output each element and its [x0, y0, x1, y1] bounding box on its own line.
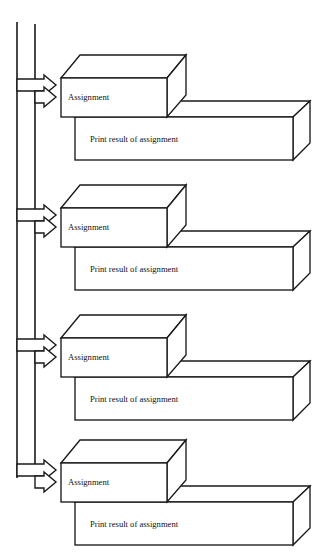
assignment-box-4-label: Assignment	[68, 477, 110, 487]
print-box-3-label: Print result of assignment	[90, 394, 179, 404]
assignment-box-1-label: Assignment	[68, 92, 110, 102]
flow-diagram-canvas: Print result of assignment Assignment Pr…	[0, 0, 314, 560]
assignment-box-2-label: Assignment	[68, 222, 110, 232]
assignment-box-3-top-face	[61, 315, 186, 338]
flow-diagram-svg: Print result of assignment Assignment Pr…	[0, 0, 314, 560]
assignment-box-2-top-face	[61, 185, 186, 208]
flow-group-4: Print result of assignment Assignment	[17, 440, 310, 545]
flow-group-2: Print result of assignment Assignment	[17, 185, 310, 290]
print-box-2-label: Print result of assignment	[90, 264, 179, 274]
print-box-1-label: Print result of assignment	[90, 134, 179, 144]
assignment-box-1-top-face	[61, 55, 186, 78]
assignment-box-4-top-face	[61, 440, 186, 463]
flow-group-1: Print result of assignment Assignment	[17, 55, 310, 160]
print-box-4-label: Print result of assignment	[90, 519, 179, 529]
flow-group-3: Print result of assignment Assignment	[17, 315, 310, 420]
assignment-box-3-label: Assignment	[68, 352, 110, 362]
